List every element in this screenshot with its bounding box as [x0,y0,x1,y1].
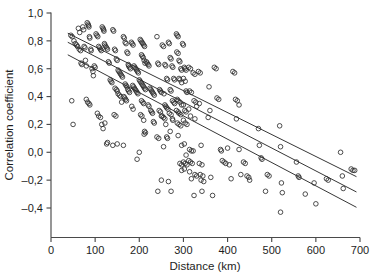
chart-canvas: 1,00,80,60,40,20,0–0,2–0,4 0100200300400… [0,0,375,275]
y-tick-label: 0,6 [28,63,43,75]
x-tick-label: 500 [263,244,281,256]
y-tick-label: 0,2 [28,118,43,130]
x-tick-label: 100 [86,244,104,256]
y-tick-label: 1,0 [28,7,43,19]
y-tick-label: 0,8 [28,35,43,47]
y-axis-title: Correlation coefficient [3,69,15,181]
scatter-plot-figure: 1,00,80,60,40,20,0–0,2–0,4 0100200300400… [0,0,375,275]
x-tick-label: 400 [218,244,236,256]
y-tick-label: –0,4 [22,202,43,214]
x-tick-label: 200 [130,244,148,256]
x-tick-label: 0 [48,244,54,256]
x-tick-label: 300 [174,244,192,256]
y-tick-label: –0,2 [22,174,43,186]
y-tick-label: 0,4 [28,90,43,102]
y-tick-label: 0,0 [28,146,43,158]
x-tick-label: 700 [351,244,369,256]
x-tick-label: 600 [307,244,325,256]
figure-background [0,0,375,275]
x-axis-title: Distance (km) [170,260,241,272]
